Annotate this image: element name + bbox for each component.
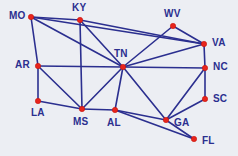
graph-edge [123,67,205,68]
node-label-fl: FL [202,136,215,146]
node-label-wv: WV [164,9,181,19]
node-label-ms: MS [73,117,88,127]
node-label-mo: MO [9,11,26,21]
graph-node-fl[interactable] [191,136,196,141]
node-label-al: AL [107,118,121,128]
graph-node-ms[interactable] [79,106,84,111]
graph-node-al[interactable] [112,107,117,112]
node-label-ar: AR [15,60,30,70]
graph-edge [80,20,82,109]
node-label-nc: NC [213,62,228,72]
graph-edge [123,44,204,67]
graph-node-va[interactable] [201,41,206,46]
graph-edge [82,109,115,110]
node-label-ky: KY [72,3,86,13]
graph-edge [38,66,123,67]
graph-svg [0,0,238,156]
graph-node-tn[interactable] [120,64,125,69]
node-label-sc: SC [213,94,227,104]
graph-edge [166,68,205,120]
diagram-canvas: MOKYWVVAARTNNCSCLAMSALGAFL [0,0,238,156]
graph-node-wv[interactable] [170,23,175,28]
node-label-la: LA [31,108,45,118]
graph-node-ga[interactable] [163,117,168,122]
graph-node-nc[interactable] [202,65,207,70]
graph-node-sc[interactable] [202,96,207,101]
graph-node-ky[interactable] [77,17,82,22]
graph-node-mo[interactable] [28,14,33,19]
graph-edge [31,17,38,66]
node-label-va: VA [212,38,226,48]
graph-node-la[interactable] [35,98,40,103]
graph-edge [204,44,205,68]
node-label-tn: TN [114,49,128,59]
graph-node-ar[interactable] [35,63,40,68]
node-label-ga: GA [174,118,189,128]
